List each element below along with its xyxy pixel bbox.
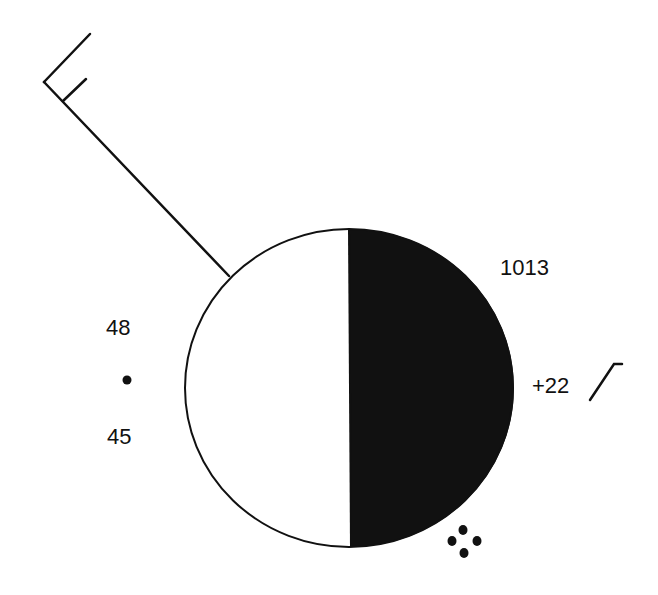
temperature-value: 48: [106, 317, 130, 339]
separator-dot-icon: [123, 376, 132, 385]
station-model: [0, 0, 658, 595]
present-weather-rain-icon: [448, 525, 482, 558]
pressure-tendency-icon: [590, 364, 622, 400]
wind-half-barb: [63, 79, 86, 101]
sky-cover-icon: [185, 229, 514, 547]
wind-barb-icon: [44, 34, 229, 276]
dew-point-value: 45: [107, 426, 131, 448]
pressure-value: 1013: [500, 257, 549, 279]
wind-staff: [44, 82, 229, 276]
wind-full-barb: [44, 34, 90, 82]
pressure-tendency-value: +22: [532, 375, 569, 397]
sky-cover-filled-half: [350, 229, 514, 547]
